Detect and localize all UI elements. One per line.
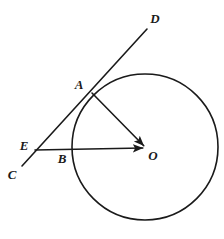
tangent-line-cd	[22, 29, 147, 166]
radius-ao	[92, 93, 144, 146]
geometry-figure: A B C D E O	[0, 0, 224, 239]
geometry-canvas	[0, 0, 224, 239]
point-label-e: E	[20, 139, 29, 152]
point-label-c: C	[8, 168, 17, 181]
point-label-a: A	[75, 78, 84, 91]
point-label-o: O	[148, 149, 157, 162]
segment-eo	[35, 148, 143, 150]
point-label-b: B	[58, 152, 67, 165]
point-label-d: D	[150, 12, 159, 25]
